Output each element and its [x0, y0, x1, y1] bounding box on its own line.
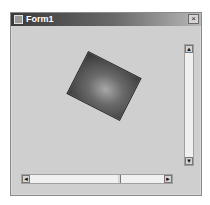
scroll-thumb[interactable] — [118, 175, 121, 183]
rotated-rectangle-shape — [66, 51, 141, 121]
close-button[interactable]: × — [188, 14, 199, 24]
window-title: Form1 — [26, 13, 54, 26]
scroll-down-button[interactable]: ▼ — [185, 157, 193, 165]
horizontal-scrollbar[interactable]: ◄ ► — [21, 174, 173, 184]
scroll-up-button[interactable]: ▲ — [185, 45, 193, 53]
form1-window: Form1 × ▲ ▼ ◄ ► — [10, 12, 202, 196]
client-area: ▲ ▼ ◄ ► — [12, 26, 200, 194]
scroll-right-button[interactable]: ► — [164, 175, 172, 183]
app-window-icon[interactable] — [14, 15, 23, 24]
title-bar[interactable]: Form1 × — [11, 13, 201, 26]
vertical-scrollbar[interactable]: ▲ ▼ — [184, 44, 194, 166]
scroll-left-button[interactable]: ◄ — [22, 175, 30, 183]
